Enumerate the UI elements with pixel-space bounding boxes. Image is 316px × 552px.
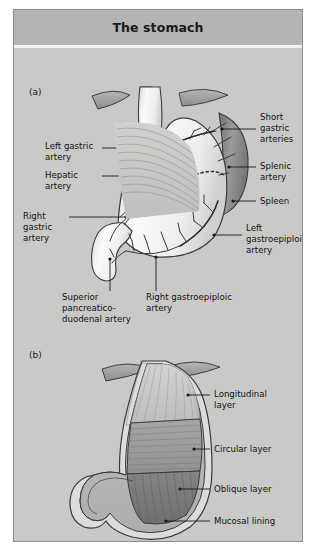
label-longitudinal-layer: Longitudinal layer — [214, 389, 298, 411]
circular-layer-shape — [127, 419, 202, 474]
label-splenic-artery: Splenic artery — [260, 161, 303, 183]
figure-plate: (a) (b) Left gastric artery Hepatic arte… — [14, 51, 303, 541]
label-spleen: Spleen — [260, 196, 303, 207]
figure-title-bar: The stomach — [14, 10, 302, 48]
label-right-gastroepiploic-artery: Right gastroepiploic artery — [146, 292, 246, 314]
panel-tag-b: (b) — [29, 350, 42, 360]
label-left-gastric-artery: Left gastric artery — [45, 141, 105, 163]
label-superior-pancreaticoduodenal-artery: Superior pancreatico- duodenal artery — [62, 292, 138, 326]
figure-frame: The stomach — [13, 9, 303, 542]
page-title: The stomach — [112, 20, 203, 35]
label-oblique-layer: Oblique layer — [214, 484, 298, 495]
label-circular-layer: Circular layer — [214, 444, 298, 455]
label-left-gastroepiploic-artery: Left gastroepiploic artery — [246, 223, 303, 257]
panel-tag-a: (a) — [29, 87, 42, 97]
label-right-gastric-artery: Right gastric artery — [23, 211, 71, 245]
label-short-gastric-arteries: Short gastric arteries — [260, 112, 303, 146]
label-mucosal-lining: Mucosal lining — [214, 516, 300, 527]
label-hepatic-artery: Hepatic artery — [45, 170, 101, 192]
